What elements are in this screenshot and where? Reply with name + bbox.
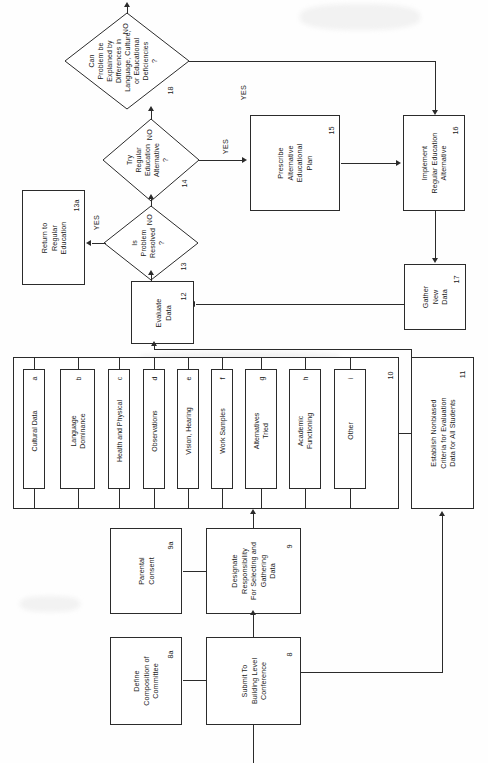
branch-label-13-no: NO: [145, 214, 154, 225]
box-11-ref: 11: [458, 371, 467, 378]
box-10-subcell-label: Other: [346, 423, 355, 441]
box-8-submit-to-building-level-conference[interactable]: Submit To Building Level Conference 8: [206, 637, 301, 725]
box-10-subcell-e[interactable]: Vision, Hearinge: [177, 369, 199, 489]
decision-13-ref: 13: [179, 263, 188, 271]
conn-12-to-13: [151, 274, 152, 282]
box-10-subcell-label: Cultural Data: [30, 411, 39, 452]
conn-14-no: [151, 110, 152, 120]
box-10-subcell-tie-top: [154, 357, 155, 369]
box-10-ref: 10: [386, 372, 395, 380]
box-10-subcell-tie-bottom: [34, 489, 35, 509]
conn-18-yes-v: [435, 61, 436, 113]
box-16-label: Implement Regular Education Alternative: [420, 133, 449, 194]
box-15-prescribe-alternative-plan[interactable]: Prescribe Alternative Educational Plan 1…: [250, 115, 340, 211]
conn-10-to-12-v: [411, 349, 412, 357]
box-10-subcell-tie-top: [305, 357, 306, 369]
conn-entry-into-8: [253, 725, 254, 763]
box-10-subcell-a[interactable]: Cultural Dataa: [23, 369, 45, 489]
box-10-subcell-f[interactable]: Work Samplesf: [211, 369, 233, 489]
flowchart-canvas: Can Problem be Explained by Differences …: [0, 0, 488, 763]
box-9-designate-responsibility[interactable]: Designate Responsibility For Selecting a…: [206, 528, 301, 614]
branch-label-14-no: NO: [145, 129, 154, 140]
scan-artifact: [300, 4, 420, 30]
box-10-subcell-label: Language Dominance: [69, 414, 87, 449]
conn-8-to-11-v: [442, 516, 443, 673]
arrowhead-14-no: [148, 106, 154, 111]
box-8a-ref: 8a: [166, 651, 175, 659]
box-10-subcell-d[interactable]: Observationsd: [143, 369, 165, 489]
conn-17-to-12: [196, 304, 404, 305]
box-15-ref: 15: [327, 127, 336, 135]
conn-16-to-17: [435, 211, 436, 260]
conn-8-to-9: [253, 615, 254, 637]
box-10-subcell-ref: g: [258, 377, 265, 381]
box-15-label: Prescribe Alternative Educational Plan: [276, 144, 314, 183]
box-10-subcell-tie-bottom: [188, 489, 189, 509]
conn-10-to-11: [399, 433, 411, 434]
arrowhead-13-yes: [86, 240, 91, 246]
box-16-ref: 16: [451, 127, 460, 135]
box-9a-ref: 9a: [166, 542, 175, 550]
box-10-subcell-tie-top: [78, 357, 79, 369]
arrowhead-16-to-17: [432, 258, 438, 263]
box-10-subcell-ref: i: [347, 378, 354, 380]
box-10-subcell-tie-bottom: [261, 489, 262, 509]
box-10-subcell-c[interactable]: Health and Physicalc: [108, 369, 130, 489]
arrowhead-10-to-12: [151, 341, 157, 346]
box-10-subcell-b[interactable]: Language Dominanceb: [60, 369, 95, 489]
arrowhead-8-to-11: [439, 511, 445, 516]
box-10-subcell-i[interactable]: Otheri: [334, 369, 366, 489]
box-8-ref: 8: [285, 653, 294, 657]
box-10-subcell-tie-top: [261, 357, 262, 369]
branch-label-18-no: NO: [121, 23, 130, 34]
branch-label-13-yes: YES: [92, 215, 101, 230]
box-8a-define-composition-of-committee[interactable]: Define Composition of Committee 8a: [110, 637, 182, 725]
box-13a-return-to-regular-education[interactable]: Return to Regular Education 13a: [22, 190, 85, 285]
box-17-label: Gather New Data: [421, 286, 450, 309]
arrowhead-8-to-9: [250, 610, 256, 615]
box-12-label: Evaluate Data: [153, 298, 172, 327]
conn-13-yes: [92, 243, 106, 244]
conn-8-to-11-h: [300, 672, 442, 673]
branch-label-14-yes: YES: [221, 139, 230, 154]
box-10-subcell-label: Health and Physical: [115, 400, 124, 462]
arrowhead-13-no: [148, 194, 154, 199]
box-13a-ref: 13a: [72, 200, 81, 212]
conn-18-no: [127, 6, 128, 14]
box-10-subcell-ref: a: [31, 377, 38, 381]
box-10-subcell-tie-bottom: [222, 489, 223, 509]
box-10-subcell-tie-top: [350, 357, 351, 369]
arrowhead-14-yes: [242, 157, 247, 163]
box-9a-parental-consent[interactable]: Parental Consent 9a: [110, 528, 182, 614]
box-10-subcell-ref: f: [219, 378, 226, 380]
conn-18-yes-h: [189, 61, 435, 62]
box-10-subcell-label: Academic Functioning: [296, 413, 314, 449]
box-10-subcell-tie-bottom: [78, 489, 79, 509]
box-12-evaluate-data[interactable]: Evaluate Data 12: [131, 281, 194, 344]
box-10-subcell-ref: c: [116, 377, 123, 381]
box-9-ref: 9: [285, 545, 294, 549]
box-11-label: Establish Nonbiased Criteria for Evaluat…: [428, 397, 457, 468]
box-13a-label: Return to Regular Education: [39, 221, 68, 254]
box-10-subcell-tie-bottom: [350, 489, 351, 509]
arrowhead-18-no: [124, 2, 130, 7]
scan-artifact: [20, 596, 80, 612]
box-10-subcell-ref: h: [302, 377, 309, 381]
box-10-subcell-ref: e: [185, 377, 192, 381]
box-10-subcell-g[interactable]: Alternatives Triedg: [245, 369, 277, 489]
box-10-subcell-tie-bottom: [154, 489, 155, 509]
box-17-gather-new-data[interactable]: Gather New Data 17: [404, 264, 466, 330]
branch-label-18-yes: YES: [239, 85, 248, 100]
box-11-establish-nonbiased-criteria[interactable]: Establish Nonbiased Criteria for Evaluat…: [411, 357, 474, 509]
box-10-subcell-h[interactable]: Academic Functioningh: [289, 369, 321, 489]
conn-15-to-16: [341, 163, 397, 164]
conn-13-no: [151, 198, 152, 207]
box-8a-label: Define Composition of Committee: [132, 656, 161, 705]
box-10-subcell-ref: b: [74, 377, 81, 381]
box-10-subcell-tie-bottom: [119, 489, 120, 509]
box-16-implement-regular-education-alternative[interactable]: Implement Regular Education Alternative …: [403, 115, 465, 211]
box-10-subcell-label: Alternatives Tried: [252, 413, 270, 450]
box-10-subcell-tie-top: [119, 357, 120, 369]
decision-18-ref: 18: [166, 87, 175, 95]
box-10-subcell-tie-top: [188, 357, 189, 369]
